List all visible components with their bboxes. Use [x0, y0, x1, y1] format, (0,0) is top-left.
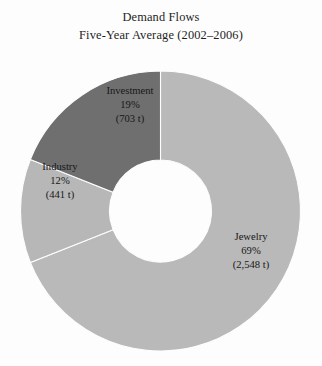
slice-label-investment-value: (703 t): [82, 112, 178, 126]
chart-page: Demand Flows Five-Year Average (2002–200…: [0, 0, 322, 366]
slice-label-jewelry: Jewelry 69% (2,548 t): [200, 230, 302, 272]
slice-label-jewelry-name: Jewelry: [200, 230, 302, 244]
slice-label-jewelry-percent: 69%: [200, 244, 302, 258]
slice-label-industry: Industry 12% (441 t): [12, 160, 108, 202]
slice-label-jewelry-value: (2,548 t): [200, 258, 302, 272]
slice-label-investment-percent: 19%: [82, 98, 178, 112]
slice-label-industry-percent: 12%: [12, 174, 108, 188]
slice-label-investment: Investment 19% (703 t): [82, 84, 178, 126]
slice-label-industry-value: (441 t): [12, 188, 108, 202]
slice-label-industry-name: Industry: [12, 160, 108, 174]
slice-label-investment-name: Investment: [82, 84, 178, 98]
